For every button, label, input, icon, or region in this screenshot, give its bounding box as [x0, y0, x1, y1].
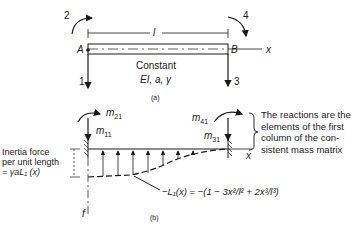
length-label: l	[153, 27, 155, 38]
x-axis-label-b: x	[246, 150, 251, 161]
f-axis-label: f	[82, 208, 85, 219]
inertia-curve	[88, 149, 228, 177]
reactions-note: The reactions are the elements of the fi…	[261, 109, 351, 155]
dof-4-label: 4	[243, 10, 249, 21]
m31-label: m31	[204, 130, 220, 145]
length-dimension	[88, 29, 228, 38]
m11-label: m11	[96, 125, 112, 140]
caption-b: (b)	[150, 212, 159, 223]
dof-3-label: 3	[234, 76, 240, 87]
caption-a: (a)	[151, 92, 160, 103]
dof-2-label: 2	[64, 10, 70, 21]
dof-2-rotation-arrow	[72, 18, 92, 34]
props-constant: Constant	[136, 60, 176, 71]
m21-label: m21	[106, 107, 122, 122]
inertia-force-note: Inertia force per unit length = γaL₁ (x)	[2, 147, 59, 177]
m41-label: m41	[192, 112, 208, 127]
x-axis-label-a: x	[266, 44, 271, 55]
props-values: EI, a, γ	[140, 74, 171, 85]
node-b-label: B	[231, 44, 238, 55]
node-a-label: A	[77, 44, 84, 55]
dof-1-label: 1	[79, 76, 85, 87]
shape-function-formula: −L₁(x) = −(1 − 3x²/l² + 2x³/l³)	[162, 186, 279, 197]
